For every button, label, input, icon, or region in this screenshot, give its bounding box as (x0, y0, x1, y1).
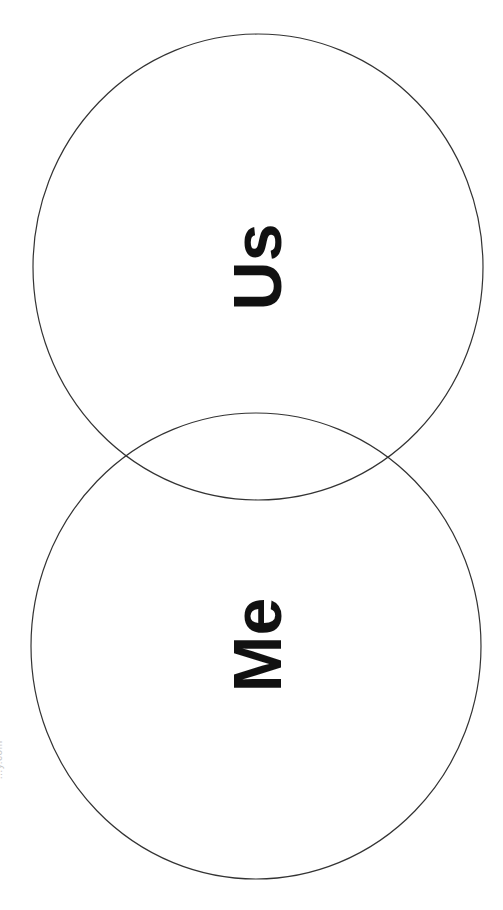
label-us: Us (223, 224, 291, 311)
watermark-text: …y.com (0, 741, 4, 780)
venn-diagram-graphic (0, 0, 503, 910)
label-me: Me (223, 598, 291, 692)
venn-diagram: Us Me …y.com (0, 0, 503, 910)
